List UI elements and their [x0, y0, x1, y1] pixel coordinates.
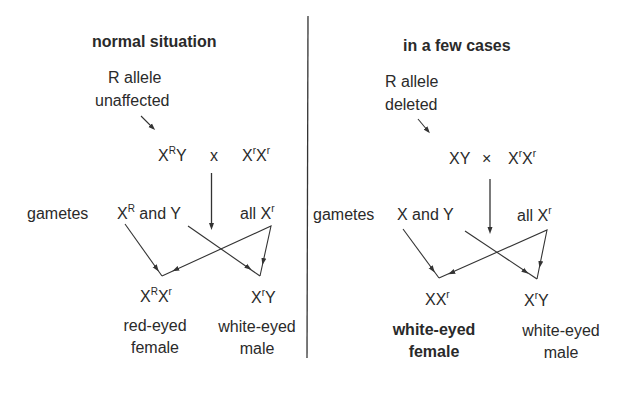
left-female-parent-genotype: XrXr [242, 146, 270, 165]
left-offspring-male-phenotype: white-eyedmale [208, 317, 306, 358]
right-offspring-female-phenotype: white-eyedfemale [385, 320, 483, 361]
right-panel-title: in a few cases [403, 36, 511, 55]
right-offspring-male-phenotype: white-eyedmale [512, 321, 610, 362]
left-male-parent-genotype: XRY [158, 146, 187, 165]
panel-divider [307, 16, 308, 358]
left-cross-symbol: x [210, 146, 218, 165]
right-line-xr-mother [439, 230, 547, 279]
left-line-xr-to-female [125, 224, 162, 276]
right-female-parent-genotype: XrXr [508, 149, 536, 168]
left-panel-title: normal situation [92, 32, 216, 51]
left-line-xr-mother [162, 226, 271, 276]
left-female-gametes: all Xr [240, 204, 274, 223]
left-male-gametes: XR and Y [117, 204, 181, 223]
right-male-parent-genotype: XY [449, 149, 470, 168]
left-note-line1: R allele [108, 68, 161, 87]
right-male-gametes: X and Y [397, 205, 454, 224]
right-female-gametes: all Xr [517, 206, 551, 225]
left-gametes-label: gametes [27, 204, 88, 223]
right-line-y-to-male [465, 231, 537, 279]
right-gametes-label: gametes [313, 205, 374, 224]
right-offspring-female-genotype: XXr [425, 290, 450, 309]
right-cross-symbol: × [482, 149, 491, 168]
left-note-arrow [141, 116, 153, 128]
right-line-x-to-female [403, 229, 439, 278]
right-note-line2: deleted [385, 95, 438, 114]
left-offspring-female-phenotype: red-eyedfemale [112, 316, 198, 357]
right-note-arrow [418, 119, 428, 131]
left-offspring-female-genotype: XRXr [140, 287, 172, 306]
right-offspring-male-genotype: XrY [524, 291, 549, 310]
left-note-line2: unaffected [95, 91, 169, 110]
right-note-line1: R allele [385, 72, 438, 91]
left-offspring-male-genotype: XrY [251, 288, 276, 307]
left-line-y-to-male [188, 226, 260, 276]
